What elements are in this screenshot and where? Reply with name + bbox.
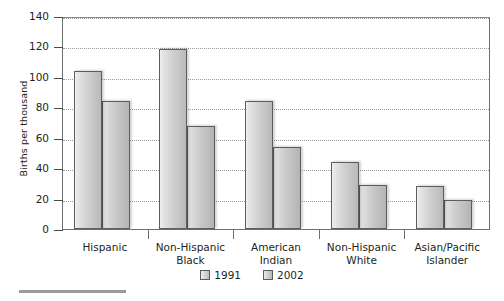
y-axis-tick (54, 169, 63, 170)
legend-swatch-icon (200, 270, 210, 280)
x-axis-label: AmericanIndian (233, 241, 319, 266)
y-axis-tick (54, 108, 63, 109)
y-axis-tick (54, 17, 63, 18)
bar (416, 186, 444, 229)
y-axis-tick (54, 47, 63, 48)
x-axis-label: Non-HispanicWhite (319, 241, 405, 266)
bar-chart: Births per thousand 020406080100120140 H… (0, 0, 504, 301)
bar (74, 71, 102, 229)
gridline (63, 48, 489, 49)
caption-rule (19, 290, 126, 293)
y-axis-tick (54, 230, 63, 231)
y-axis-label: 120 (3, 41, 49, 52)
gridline (63, 79, 489, 80)
x-axis-separator (233, 230, 234, 239)
y-axis-label: 60 (3, 133, 49, 144)
legend-entry: 2002 (263, 269, 304, 281)
x-axis-label: Hispanic (62, 241, 148, 254)
y-axis-tick (54, 139, 63, 140)
y-axis-label: 40 (3, 163, 49, 174)
x-axis-label: Asian/PacificIslander (404, 241, 490, 266)
y-axis-tick (54, 78, 63, 79)
legend-label: 1991 (214, 269, 241, 281)
bar (187, 126, 215, 229)
y-axis-label: 100 (3, 72, 49, 83)
plot-area (62, 17, 490, 230)
y-axis-label: 20 (3, 194, 49, 205)
bar (444, 200, 472, 229)
bar (159, 49, 187, 229)
bar (245, 101, 273, 229)
bar (359, 185, 387, 229)
bar (273, 147, 301, 229)
legend-swatch-icon (263, 270, 273, 280)
y-axis-label: 0 (3, 224, 49, 235)
y-axis-tick (54, 200, 63, 201)
chart-legend: 19912002 (0, 268, 504, 281)
y-axis-label: 80 (3, 102, 49, 113)
bar (102, 101, 130, 229)
legend-entry: 1991 (200, 269, 241, 281)
bar (331, 162, 359, 229)
x-axis-separator (148, 230, 149, 239)
legend-label: 2002 (277, 269, 304, 281)
x-axis-separator (404, 230, 405, 239)
y-axis-label: 140 (3, 11, 49, 22)
gridline (63, 18, 489, 19)
x-axis-label: Non-HispanicBlack (148, 241, 234, 266)
x-axis-separator (319, 230, 320, 239)
